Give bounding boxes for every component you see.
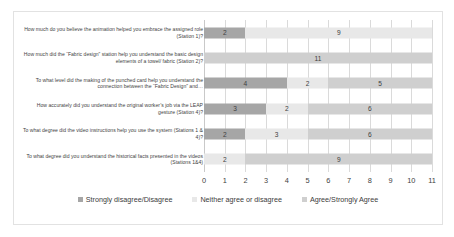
bar-row[interactable]: 29 (204, 20, 432, 45)
x-tick-label: 5 (306, 176, 310, 185)
bar-segment[interactable]: 9 (245, 154, 432, 165)
bar-value-label: 9 (337, 29, 341, 36)
legend-item[interactable]: Agree/Strongly Agree (302, 195, 378, 204)
chart-card: How much do you believe the animation he… (13, 11, 443, 225)
bar-segment[interactable]: 3 (245, 128, 307, 139)
legend-label: Neither agree or disagree (200, 195, 282, 204)
bar-segment[interactable]: 3 (204, 103, 266, 114)
bar-row[interactable]: 29 (204, 147, 432, 172)
category-label: To what degree did you understand the hi… (20, 147, 203, 172)
x-tick-label: 0 (202, 176, 206, 185)
bar-value-label: 6 (368, 105, 372, 112)
bar-track: 326 (204, 103, 432, 114)
bar-row[interactable]: 425 (204, 71, 432, 96)
category-label: How accurately did you understand the or… (20, 96, 203, 121)
bar-row[interactable]: 236 (204, 121, 432, 146)
bar-value-label: 2 (223, 156, 227, 163)
bar-value-label: 11 (315, 54, 322, 61)
gridline (432, 20, 433, 172)
bar-track: 236 (204, 128, 432, 139)
x-tick-label: 8 (368, 176, 372, 185)
x-tick-label: 6 (326, 176, 330, 185)
bar-segment[interactable]: 2 (204, 154, 245, 165)
x-tick-label: 7 (347, 176, 351, 185)
legend-item[interactable]: Neither agree or disagree (192, 195, 282, 204)
bar-value-label: 2 (223, 29, 227, 36)
plot-area: 291142532623629 (204, 20, 432, 172)
bar-segment[interactable]: 6 (308, 103, 432, 114)
legend-swatch-icon (192, 197, 197, 202)
x-tick-label: 3 (264, 176, 268, 185)
bar-track: 29 (204, 154, 432, 165)
bar-value-label: 5 (378, 80, 382, 87)
bar-segment[interactable]: 5 (328, 78, 432, 89)
bar-value-label: 4 (244, 80, 248, 87)
legend-label: Agree/Strongly Agree (310, 195, 378, 204)
bar-value-label: 3 (233, 105, 237, 112)
bar-track: 29 (204, 27, 432, 38)
bar-segment[interactable]: 2 (204, 27, 245, 38)
x-tick-label: 9 (388, 176, 392, 185)
bar-segment[interactable]: 6 (308, 128, 432, 139)
x-tick-label: 11 (428, 176, 436, 185)
category-label: To what level did the making of the punc… (20, 71, 203, 96)
category-label: How much did the “Fabric design” station… (20, 45, 203, 70)
bar-value-label: 6 (368, 130, 372, 137)
x-tick-label: 4 (285, 176, 289, 185)
chart-plot-wrapper: How much do you believe the animation he… (14, 12, 442, 224)
bar-segment[interactable]: 2 (287, 78, 328, 89)
bar-value-label: 3 (275, 130, 279, 137)
legend-item[interactable]: Strongly disagree/Disagree (78, 195, 173, 204)
bar-segment[interactable]: 2 (204, 128, 245, 139)
bar-value-label: 2 (285, 105, 289, 112)
bar-row[interactable]: 11 (204, 45, 432, 70)
x-tick-label: 10 (407, 176, 415, 185)
x-tick-label: 1 (223, 176, 227, 185)
bar-row[interactable]: 326 (204, 96, 432, 121)
legend-swatch-icon (78, 197, 83, 202)
chart-legend: Strongly disagree/DisagreeNeither agree … (14, 195, 442, 204)
bar-segment[interactable]: 2 (266, 103, 307, 114)
x-tick-label: 2 (243, 176, 247, 185)
legend-label: Strongly disagree/Disagree (86, 195, 173, 204)
bar-segment[interactable]: 9 (245, 27, 432, 38)
bar-track: 425 (204, 78, 432, 89)
bar-value-label: 2 (223, 130, 227, 137)
bar-segment[interactable]: 4 (204, 78, 287, 89)
legend-swatch-icon (302, 197, 307, 202)
bar-track: 11 (204, 52, 432, 63)
category-label: How much do you believe the animation he… (20, 20, 203, 45)
x-axis-tick-labels: 01234567891011 (204, 176, 432, 188)
bar-segment[interactable]: 11 (204, 52, 432, 63)
category-label: To what degree did the video instruction… (20, 121, 203, 146)
bar-value-label: 9 (337, 156, 341, 163)
bar-value-label: 2 (306, 80, 310, 87)
